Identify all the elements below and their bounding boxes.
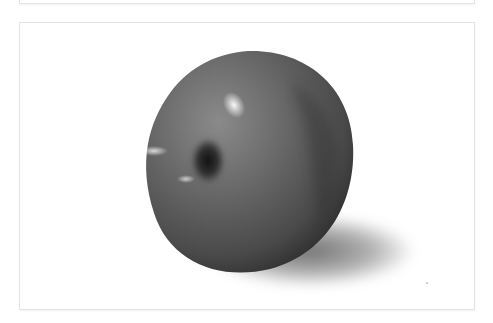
apple-calyx bbox=[190, 137, 226, 185]
top-panel bbox=[19, 0, 475, 4]
photo-panel bbox=[19, 22, 475, 310]
apple-photo bbox=[20, 23, 474, 309]
